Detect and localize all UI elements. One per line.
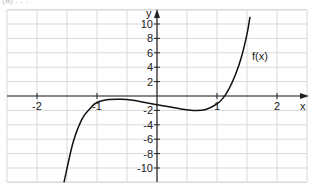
curve-label: f(x) [252, 50, 268, 62]
svg-text:2: 2 [274, 100, 280, 112]
svg-text:8: 8 [147, 32, 153, 44]
x-axis-label: x [300, 100, 306, 112]
svg-text:-2: -2 [143, 104, 153, 116]
svg-text:6: 6 [147, 47, 153, 59]
svg-text:-4: -4 [143, 119, 153, 131]
svg-text:10: 10 [141, 18, 153, 30]
function-plot: -2-112108642-2-4-6-8-10 f(x) x y [0, 0, 313, 185]
axes [7, 9, 309, 182]
svg-text:2: 2 [147, 76, 153, 88]
y-axis-label: y [146, 7, 152, 19]
svg-text:-6: -6 [143, 133, 153, 145]
svg-text:4: 4 [147, 61, 153, 73]
svg-text:-10: -10 [137, 162, 153, 174]
svg-text:-2: -2 [32, 100, 42, 112]
svg-text:-8: -8 [143, 148, 153, 160]
